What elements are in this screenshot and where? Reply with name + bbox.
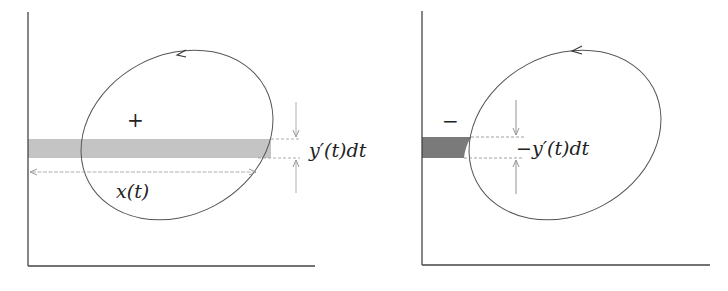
left-closed-curve (51, 17, 303, 252)
negative-strip (422, 137, 471, 158)
left-strip-height-label: y′(t)dt (308, 139, 367, 161)
right-closed-curve (439, 17, 691, 252)
positive-sign: + (127, 108, 144, 132)
right-panel: − −y′(t)dt (422, 11, 710, 265)
x-width-label: x(t) (116, 180, 149, 202)
positive-strip (28, 139, 271, 158)
diagram-canvas: + y′(t)dt x(t) − −y′(t)dt (0, 0, 728, 291)
negative-sign: − (442, 109, 459, 133)
right-strip-height-label: −y′(t)dt (516, 137, 590, 159)
left-panel: + y′(t)dt x(t) (28, 12, 367, 266)
